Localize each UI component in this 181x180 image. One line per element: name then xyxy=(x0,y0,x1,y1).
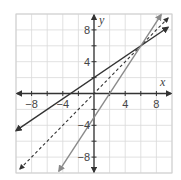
y-axis-label: y xyxy=(98,13,105,27)
x-tick-label: −4 xyxy=(57,98,70,110)
x-axis-label: x xyxy=(159,75,166,89)
y-tick-label: 4 xyxy=(84,56,90,68)
line-dark xyxy=(16,27,168,130)
coordinate-plane: −8−44884−4−8 x y xyxy=(0,0,181,180)
y-tick-label: −8 xyxy=(77,151,90,163)
y-tick-label: −4 xyxy=(77,119,90,131)
x-tick-label: 8 xyxy=(153,98,159,110)
x-tick-label: 4 xyxy=(122,98,128,110)
y-tick-label: 8 xyxy=(84,24,90,36)
x-tick-label: −8 xyxy=(25,98,38,110)
